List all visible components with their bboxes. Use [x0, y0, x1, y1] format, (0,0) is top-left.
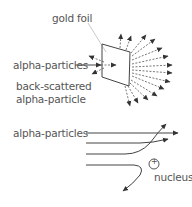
back-scattered-label-line1: back-scattered [16, 80, 92, 92]
gold-foil-leader-line [88, 23, 106, 52]
gold-foil-label: gold foil [52, 12, 92, 24]
strongly-deflected-path [86, 124, 166, 154]
forward-scattered-arrows [120, 34, 172, 106]
alpha-particles-label-bottom: alpha-particles [13, 127, 88, 139]
nucleus-charge-label: + [151, 157, 158, 167]
slightly-deflected-path [86, 139, 168, 143]
back-scattered-label-line2: alpha-particle [16, 93, 86, 105]
back-scattered-path [86, 165, 142, 191]
nucleus-label: nucleus [154, 171, 192, 183]
alpha-particles-label-top: alpha-particles [13, 59, 88, 71]
